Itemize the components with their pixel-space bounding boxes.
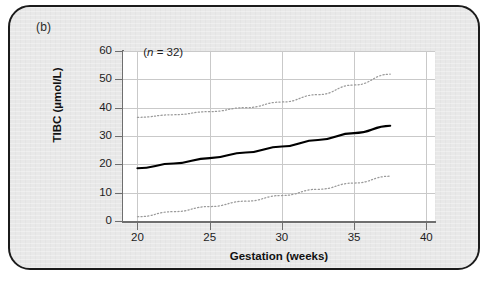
y-tick-label: 40 (82, 101, 112, 115)
y-tick-label: 30 (82, 129, 112, 143)
series-lower-reference-limit (137, 176, 390, 217)
y-tick-label-text: 0 (86, 214, 112, 226)
data-series-layer (123, 51, 435, 221)
x-axis-label: Gestation (weeks) (123, 250, 435, 262)
plot-area (123, 51, 435, 221)
y-tick-label-text: 30 (86, 129, 112, 141)
y-tick-label: 20 (82, 157, 112, 171)
x-tick-mark (354, 223, 355, 230)
x-tick-mark (137, 223, 138, 230)
series-mean (137, 126, 390, 169)
x-tick-mark (282, 223, 283, 230)
y-tick-label: 10 (82, 186, 112, 200)
x-tick-label: 40 (411, 231, 441, 243)
x-tick-label: 25 (195, 231, 225, 243)
x-tick-mark (426, 223, 427, 230)
figure-panel: (b) 0102030405060 2025303540 TIBC (µmol/… (8, 5, 480, 270)
y-tick-mark (115, 193, 122, 194)
y-tick-mark (115, 79, 122, 80)
x-axis-line (122, 221, 436, 223)
y-tick-mark (115, 136, 122, 137)
y-tick-mark (115, 164, 122, 165)
sample-size-annotation: (n = 32) (143, 46, 183, 58)
y-tick-label: 60 (82, 44, 112, 58)
y-tick-label: 0 (82, 214, 112, 228)
series-upper-reference-limit (137, 74, 390, 117)
y-tick-mark (115, 51, 122, 52)
x-tick-label: 20 (122, 231, 152, 243)
y-tick-label: 50 (82, 72, 112, 86)
x-tick-mark (210, 223, 211, 230)
y-tick-label-text: 40 (86, 101, 112, 113)
panel-label: (b) (36, 20, 51, 34)
x-tick-label: 35 (339, 231, 369, 243)
y-tick-label-text: 50 (86, 72, 112, 84)
x-tick-label: 30 (267, 231, 297, 243)
y-tick-label-text: 20 (86, 157, 112, 169)
y-tick-mark (115, 221, 122, 222)
y-tick-mark (115, 108, 122, 109)
y-tick-label-text: 60 (86, 44, 112, 56)
y-tick-label-text: 10 (86, 186, 112, 198)
y-axis-label: TIBC (µmol/L) (51, 25, 63, 185)
